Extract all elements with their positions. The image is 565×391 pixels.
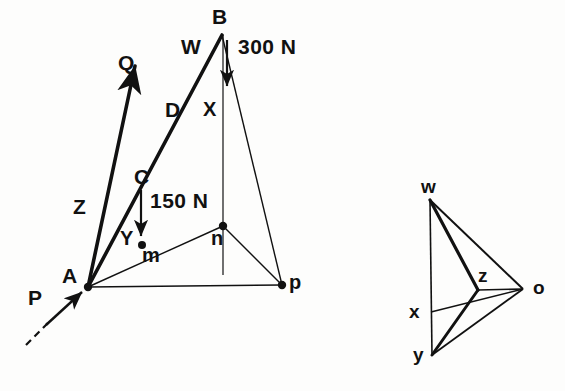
figure-canvas: B W 300 N Q D X C Z 150 N Y m n A p P w …	[0, 0, 565, 391]
label-W: W	[181, 36, 201, 57]
label-y: y	[413, 345, 424, 364]
label-A: A	[62, 265, 77, 286]
label-m: m	[142, 245, 160, 265]
label-p: p	[289, 272, 301, 292]
label-B: B	[212, 6, 227, 27]
label-Q: Q	[118, 52, 134, 73]
label-n: n	[211, 228, 223, 248]
label-Z: Z	[73, 196, 86, 217]
fp-line-z-o	[478, 289, 523, 290]
label-x: x	[409, 302, 420, 321]
line-b-p	[222, 35, 282, 285]
node-p	[278, 281, 286, 289]
fp-line-w-o	[430, 200, 523, 289]
member-a-q-arrow	[88, 66, 135, 287]
fp-line-y-o	[432, 289, 523, 355]
label-z: z	[478, 266, 488, 285]
label-D: D	[165, 99, 180, 120]
label-C: C	[134, 166, 149, 187]
fp-line-w-y	[430, 200, 432, 355]
label-o: o	[533, 278, 545, 297]
label-w: w	[421, 177, 436, 196]
fp-line-z-y	[432, 290, 478, 355]
label-force-150n: 150 N	[150, 190, 209, 211]
label-P: P	[28, 287, 42, 308]
line-a-p	[88, 285, 282, 287]
fp-line-w-z	[430, 200, 478, 290]
arrow-p-reaction	[46, 292, 82, 325]
label-force-300n: 300 N	[238, 36, 297, 57]
line-p-dashed	[26, 323, 48, 345]
line-n-p	[223, 226, 282, 285]
label-Y: Y	[120, 228, 133, 248]
label-X: X	[203, 99, 216, 119]
node-a	[84, 283, 92, 291]
